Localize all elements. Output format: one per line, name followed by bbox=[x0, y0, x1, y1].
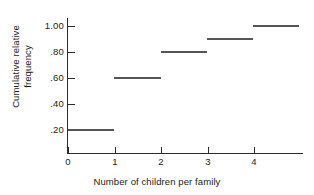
step-segment-.20 bbox=[68, 129, 114, 131]
y-axis-line bbox=[67, 18, 68, 154]
cumulative-frequency-step-chart: 1.00 .80 .60 .40 .20 0 1 2 3 4 Number of… bbox=[0, 0, 314, 195]
x-tick-label-2: 2 bbox=[151, 157, 171, 167]
x-tick-label-0: 0 bbox=[58, 157, 78, 167]
y-axis-title-line-2: frequency bbox=[21, 0, 33, 137]
y-tick-mark-1.00 bbox=[68, 26, 75, 27]
step-segment-.60 bbox=[114, 77, 160, 79]
y-axis-title: Cumulative relative frequency bbox=[10, 0, 33, 137]
y-axis-title-line-1: Cumulative relative bbox=[10, 0, 22, 137]
x-axis-title: Number of children per family bbox=[0, 176, 314, 187]
x-tick-label-3: 3 bbox=[198, 157, 218, 167]
x-tick-mark-0 bbox=[68, 147, 69, 154]
y-tick-mark-0.80 bbox=[68, 52, 75, 53]
step-segment-.90 bbox=[207, 38, 253, 40]
x-tick-mark-1 bbox=[115, 147, 116, 154]
x-tick-label-4: 4 bbox=[244, 157, 264, 167]
x-tick-mark-2 bbox=[161, 147, 162, 154]
x-axis-line bbox=[67, 153, 303, 154]
y-tick-mark-0.40 bbox=[68, 104, 75, 105]
step-segment-1.00 bbox=[253, 25, 299, 27]
x-tick-mark-4 bbox=[254, 147, 255, 154]
step-segment-.80 bbox=[161, 51, 207, 53]
y-tick-mark-0.60 bbox=[68, 78, 75, 79]
x-tick-label-1: 1 bbox=[105, 157, 125, 167]
x-tick-mark-3 bbox=[208, 147, 209, 154]
